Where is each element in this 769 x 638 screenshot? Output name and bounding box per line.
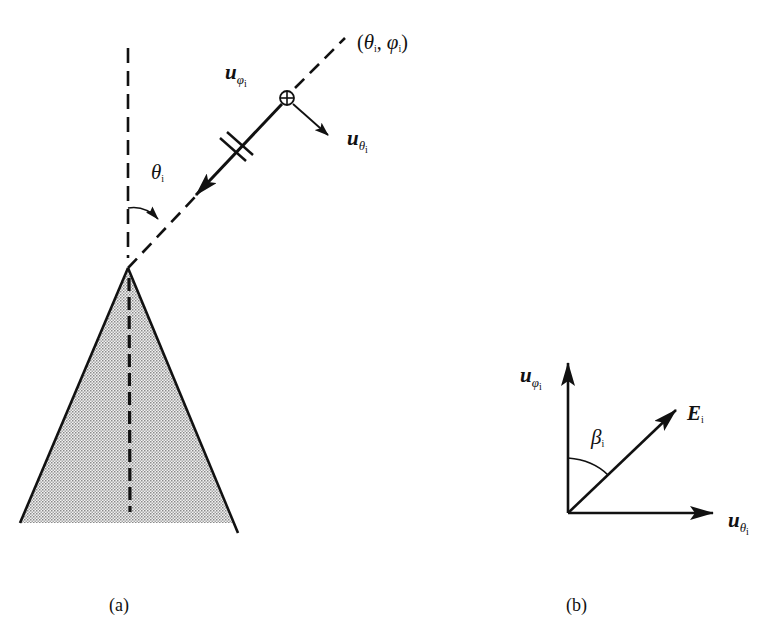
- beta-symbol: β: [591, 425, 601, 449]
- u-theta-arrow-a: [293, 104, 328, 135]
- u-symbol: u: [225, 60, 237, 84]
- e-field-label: Ei: [687, 403, 704, 424]
- diagram-canvas: [0, 0, 769, 638]
- u-symbol: u: [347, 126, 359, 150]
- caption-a: (a): [109, 596, 129, 614]
- panel-b: [568, 363, 713, 513]
- polarization-bar-2: [227, 132, 253, 155]
- beta-angle-label: βi: [591, 427, 604, 448]
- caption-b: (b): [566, 596, 587, 614]
- paren-open: (: [357, 31, 364, 53]
- direction-label: (θi, φi): [357, 32, 408, 53]
- theta-angle-arc: [128, 207, 158, 219]
- figure: (θi, φi) uφi uθi θi (a) uφi Ei βi uθi (b…: [0, 0, 769, 638]
- phi-symbol: φ: [387, 30, 399, 54]
- u-phi-label-a: uφi: [225, 62, 247, 83]
- incidence-direction-dashed-upper: [295, 38, 345, 88]
- i-subscript: i: [601, 438, 604, 449]
- beta-angle-arc: [568, 458, 608, 475]
- i-subscript: i: [539, 381, 542, 392]
- theta-symbol: θ: [151, 160, 161, 184]
- paren-close: ): [401, 31, 408, 53]
- theta-symbol: θ: [364, 30, 374, 54]
- e-symbol: E: [687, 401, 701, 425]
- u-theta-label-a: uθi: [347, 128, 368, 149]
- u-phi-label-b: uφi: [520, 365, 542, 386]
- i-subscript: i: [701, 414, 704, 425]
- out-of-plane-symbol: [280, 91, 294, 105]
- phi-subscript: φ: [532, 375, 539, 390]
- theta-subscript: i: [374, 43, 377, 54]
- panel-a: [20, 38, 345, 533]
- phi-subscript: i: [398, 43, 401, 54]
- cone-shape: [20, 268, 232, 523]
- separator: ,: [377, 31, 387, 53]
- u-symbol: u: [520, 363, 532, 387]
- i-subscript: i: [244, 78, 247, 89]
- incidence-direction-dashed: [128, 196, 196, 268]
- i-subscript: i: [365, 144, 368, 155]
- u-symbol: u: [728, 508, 740, 532]
- incident-wave-arrow: [196, 104, 282, 195]
- u-theta-label-b: uθi: [728, 510, 749, 531]
- i-subscript: i: [161, 173, 164, 184]
- i-subscript: i: [746, 526, 749, 537]
- theta-angle-label: θi: [151, 162, 164, 183]
- phi-subscript: φ: [237, 72, 244, 87]
